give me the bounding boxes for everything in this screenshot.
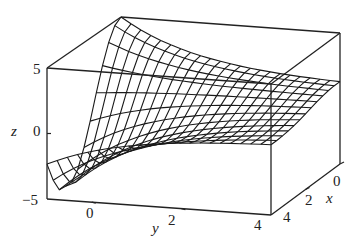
x-tick-2: 2 <box>305 192 313 208</box>
y-tick-4: 4 <box>254 217 262 233</box>
z-axis-label: z <box>10 123 17 139</box>
surface-mesh <box>47 17 340 190</box>
y-axis-label: y <box>150 220 159 236</box>
z-tick-0: 0 <box>33 123 41 139</box>
x-tick-4: 4 <box>283 209 291 225</box>
x-axis-label: x <box>325 190 333 206</box>
surface-plot: z 5 0 −5 0 2 4 y 0 2 4 x <box>0 0 359 246</box>
x-tick-0: 0 <box>333 173 341 189</box>
z-tick-minus5: −5 <box>22 192 38 208</box>
y-tick-0: 0 <box>86 205 94 221</box>
z-tick-5: 5 <box>33 61 41 77</box>
y-tick-2: 2 <box>168 212 176 228</box>
